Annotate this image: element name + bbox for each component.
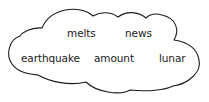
word-lunar: lunar <box>159 53 185 64</box>
word-earthquake: earthquake <box>21 53 80 64</box>
word-melts: melts <box>67 28 96 39</box>
word-cloud: melts news earthquake amount lunar <box>0 0 209 102</box>
cloud-outline-icon <box>0 0 209 102</box>
word-amount: amount <box>94 53 134 64</box>
word-news: news <box>125 28 152 39</box>
